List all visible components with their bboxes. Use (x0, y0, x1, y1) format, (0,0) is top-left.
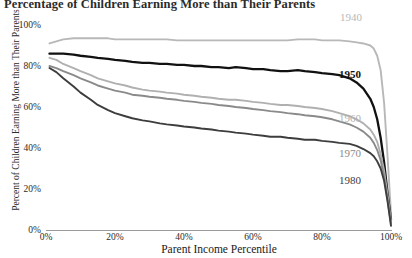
x-axis-tick: 60% (233, 232, 273, 243)
x-axis-tick: 40% (164, 232, 204, 243)
y-axis-tick: 80% (0, 61, 44, 71)
x-axis-label: Parent Income Percentile (46, 243, 392, 255)
y-axis-tick: 20% (0, 184, 44, 194)
y-axis-tick-group: 0%20%40%60%80%100% (0, 0, 44, 258)
x-axis-tick: 0% (26, 232, 66, 243)
series-line-1960 (49, 58, 391, 222)
x-axis-tick: 20% (95, 232, 135, 243)
series-label-1980: 1980 (339, 174, 361, 186)
chart-figure: Percentage of Children Earning More than… (0, 0, 412, 258)
series-line-1970 (49, 66, 391, 224)
series-label-1940: 1940 (340, 11, 362, 23)
x-axis-line (46, 230, 392, 231)
series-label-1950: 1950 (339, 68, 361, 80)
plot-area (46, 25, 391, 230)
x-axis-tick: 80% (302, 232, 342, 243)
y-axis-tick: 40% (0, 143, 44, 153)
series-lines-svg (46, 25, 391, 230)
series-line-1940 (49, 38, 391, 213)
series-label-1970: 1970 (339, 147, 361, 159)
series-label-1960: 1960 (339, 112, 361, 124)
x-axis-tick: 100% (371, 232, 411, 243)
y-axis-tick: 100% (0, 20, 44, 30)
y-axis-tick: 60% (0, 102, 44, 112)
